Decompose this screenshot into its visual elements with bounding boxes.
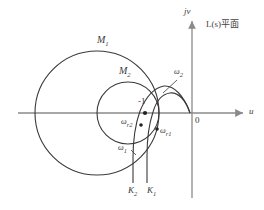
- m2-label-sub: 2: [127, 71, 130, 78]
- omega1-label-sub: 1: [124, 147, 127, 154]
- k2-label-sub: 2: [134, 190, 137, 197]
- origin-label: 0: [195, 116, 200, 125]
- omega2-leader-line: [163, 80, 177, 93]
- omega-r2-label: ωr2: [121, 118, 132, 128]
- omega-r1-label-sub: r1: [166, 130, 172, 137]
- omega2-label-sub: 2: [180, 71, 183, 78]
- k1-label-sub: 1: [153, 190, 156, 197]
- m2-label: M2: [119, 66, 131, 79]
- m1-label-sub: 1: [105, 40, 108, 47]
- figure-canvas: [0, 0, 264, 210]
- imaginary-axis-label: jv: [184, 7, 191, 16]
- omega-r2-point-marker: [139, 123, 143, 127]
- omega-r2-label-sub: r2: [127, 121, 133, 128]
- omega1-label: ω1: [118, 144, 127, 154]
- omega2-label: ω2: [174, 68, 183, 78]
- critical-point-marker: [143, 111, 147, 115]
- plane-label: L(s)平面: [206, 20, 239, 29]
- nyquist-m-circle-figure: jv u 0 L(s)平面 M1 M2 -1 ωr2 ωr1 ω2 ω1 K2 …: [0, 0, 264, 210]
- real-axis-label: u: [249, 107, 254, 116]
- omega-r1-label: ωr1: [160, 127, 171, 137]
- m1-label: M1: [97, 35, 109, 48]
- omega-r1-point-marker: [155, 127, 159, 131]
- k2-label: K2: [128, 186, 137, 197]
- k1-label: K1: [147, 186, 156, 197]
- critical-point-label: -1: [138, 97, 146, 106]
